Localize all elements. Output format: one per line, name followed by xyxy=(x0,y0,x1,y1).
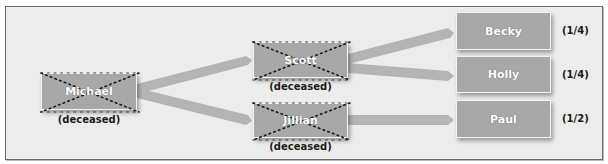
node-label: Becky xyxy=(485,25,522,38)
node-label: Michael xyxy=(65,85,113,98)
arrow-michael-scott xyxy=(137,56,252,94)
node-jillian: Jillian xyxy=(253,103,348,138)
node-label: Scott xyxy=(284,54,317,67)
share-holly: (1/4) xyxy=(562,69,589,80)
node-label: Holly xyxy=(488,68,519,81)
node-label: Jillian xyxy=(283,114,317,127)
arrow-scott-becky xyxy=(348,28,454,64)
note-michael: (deceased) xyxy=(41,114,137,125)
arrow-michael-jillian xyxy=(137,88,252,125)
node-paul: Paul xyxy=(456,100,551,138)
note-scott: (deceased) xyxy=(253,81,348,92)
node-scott: Scott xyxy=(253,42,348,78)
arrow-jillian-paul xyxy=(348,115,454,125)
arrow-scott-holly xyxy=(348,63,454,81)
node-becky: Becky xyxy=(456,12,551,50)
node-michael: Michael xyxy=(41,73,137,110)
note-jillian: (deceased) xyxy=(253,141,348,152)
node-label: Paul xyxy=(490,113,517,126)
share-becky: (1/4) xyxy=(562,25,589,36)
node-holly: Holly xyxy=(456,56,551,93)
share-paul: (1/2) xyxy=(562,113,589,124)
